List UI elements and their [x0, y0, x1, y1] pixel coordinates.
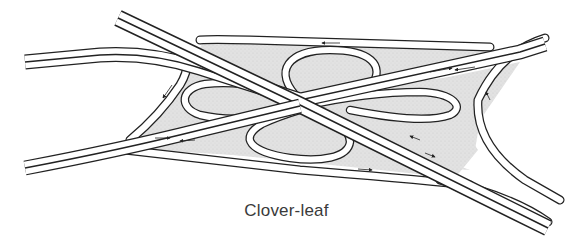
figure-caption: Clover-leaf — [0, 201, 573, 221]
